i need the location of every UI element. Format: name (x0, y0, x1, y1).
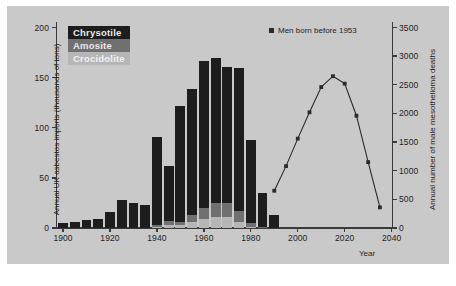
bar-legend: ChrysotileAmositeCrocidolite (68, 26, 130, 65)
line-marker (343, 82, 347, 86)
line-marker (284, 164, 288, 168)
line-marker (272, 189, 276, 193)
line-legend-label: Men born before 1953 (278, 26, 357, 35)
line-legend: Men born before 1953 (269, 26, 357, 35)
figure: 050100150200 050010001500200025003000350… (0, 0, 456, 286)
line-marker (366, 160, 370, 164)
line-marker (355, 114, 359, 118)
square-marker-icon (269, 28, 274, 33)
line-marker (378, 205, 382, 209)
line-marker (296, 137, 300, 141)
bar-legend-item: Chrysotile (68, 26, 130, 39)
line-marker (308, 110, 312, 114)
bar-legend-item: Amosite (68, 39, 130, 52)
line-marker (331, 74, 335, 78)
bar-legend-item: Crocidolite (68, 52, 130, 65)
line-path (274, 76, 380, 207)
line-marker (319, 85, 323, 89)
plot-panel: 050100150200 050010001500200025003000350… (7, 6, 449, 264)
